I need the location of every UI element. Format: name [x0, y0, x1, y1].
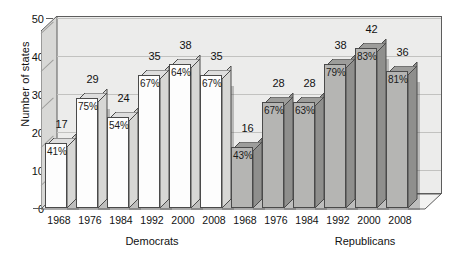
- bar-front-face: [355, 48, 377, 208]
- bar-front-face: [324, 64, 346, 208]
- bar-percent-label: 67%: [202, 79, 222, 89]
- x-tick-rep-2008: 2008: [377, 215, 423, 226]
- bar-front-face: [138, 75, 160, 208]
- bar-percent-label: 67%: [264, 106, 284, 116]
- bar-front-face: [169, 64, 191, 208]
- bar-front-face: [76, 98, 98, 208]
- bar-percent-label: 41%: [47, 147, 67, 157]
- bar-percent-label: 75%: [78, 102, 98, 112]
- bar-side-face: [408, 62, 418, 213]
- bar-percent-label: 81%: [388, 75, 408, 85]
- bar-percent-label: 54%: [109, 121, 129, 131]
- bar-percent-label: 79%: [326, 68, 346, 78]
- bar-front-face: [386, 71, 408, 208]
- bar-percent-label: 83%: [357, 52, 377, 62]
- bar-percent-label: 67%: [140, 79, 160, 89]
- bar-front-face: [200, 75, 222, 208]
- bar-percent-label: 63%: [295, 106, 315, 116]
- bar-chart: Number of states 50 40 30 20 10 0 1741%2…: [0, 0, 453, 265]
- bar-front-face: [293, 102, 315, 208]
- group-label-democrats: Democrats: [92, 236, 212, 247]
- bar-value-label: 36: [380, 47, 426, 58]
- bar-front-face: [262, 102, 284, 208]
- bar-percent-label: 64%: [171, 68, 191, 78]
- group-label-republicans: Republicans: [305, 236, 425, 247]
- bar-percent-label: 43%: [233, 151, 253, 161]
